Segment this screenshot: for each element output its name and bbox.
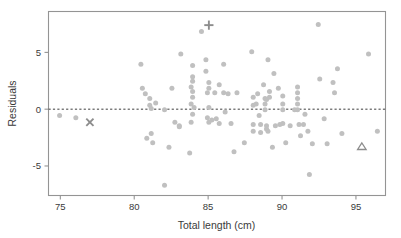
scatter-point [251,95,256,100]
scatter-point [331,80,336,85]
scatter-point [57,113,62,118]
triangle-marker [358,143,367,150]
scatter-point [339,131,344,136]
scatter-point [190,79,195,84]
scatter-point [258,122,263,127]
scatter-point [203,69,208,74]
scatter-point [147,96,152,101]
plot-canvas: 7580859095 50-5 Total length (cm) Residu… [0,0,401,238]
scatter-point [138,62,143,67]
scatter-point [234,90,239,95]
scatter-point [249,49,254,54]
scatter-point [203,57,208,62]
plot-frame [49,12,386,196]
scatter-point [221,90,226,95]
scatter-point [375,129,380,134]
scatter-point [144,136,149,141]
scatter-point [217,121,222,126]
scatter-point [301,122,306,127]
scatter-point [166,145,171,150]
scatter-point [251,122,256,127]
scatter-point [317,77,322,82]
scatter-point [255,91,260,96]
scatter-point [298,133,303,138]
scatter-point [335,66,340,71]
scatter-point [226,91,231,96]
scatter-point [280,121,285,126]
scatter-point [263,102,268,107]
scatter-point [149,131,154,136]
scatter-point [153,100,158,105]
x-axis-ticks [60,196,356,200]
scatter-point [73,115,78,120]
scatter-point [366,52,371,57]
scatter-point [297,122,302,127]
scatter-point [190,95,195,100]
scatter-point [325,141,330,146]
scatter-point [273,123,278,128]
y-axis-tick-labels: 50-5 [33,47,41,172]
x-tick-label: 85 [203,201,214,212]
scatter-point [223,110,228,115]
scatter-point [205,115,210,120]
scatter-point [162,107,167,112]
scatter-point [271,71,276,76]
scatter-point [305,129,310,134]
scatter-point [205,90,210,95]
scatter-point [206,86,211,91]
scatter-point [212,90,217,95]
scatter-point [140,86,145,91]
residual-scatter-figure: 7580859095 50-5 Total length (cm) Residu… [0,0,401,238]
scatter-point [307,172,312,177]
scatter-point [310,141,315,146]
scatter-point [217,82,222,87]
scatter-point [295,107,300,112]
scatter-point [169,86,174,91]
scatter-point [265,129,270,134]
cross-marker [86,119,93,126]
scatter-point [221,62,226,67]
scatter-point [295,90,300,95]
scatter-point [172,120,177,125]
scatter-point [206,105,211,110]
scatter-point [229,121,234,126]
scatter-point [189,85,194,90]
scatter-point [177,124,182,129]
scatter-point [267,89,272,94]
scatter-point [190,112,195,117]
scatter-point [189,120,194,125]
scatter-points [57,22,380,188]
scatter-point [280,102,285,107]
plus-marker [204,21,213,30]
scatter-point [190,74,195,79]
y-axis-title: Residuals [6,80,18,126]
y-axis-ticks [45,52,49,166]
scatter-point [214,116,219,121]
x-tick-label: 95 [351,201,362,212]
x-axis-title: Total length (cm) [178,219,256,231]
scatter-point [265,57,270,62]
scatter-point [150,140,155,145]
scatter-point [209,117,214,122]
scatter-point [242,140,247,145]
scatter-point [280,107,285,112]
y-tick-label: 5 [36,47,41,58]
x-tick-label: 75 [55,201,66,212]
scatter-point [270,145,275,150]
x-tick-label: 90 [277,201,288,212]
scatter-point [190,89,195,94]
scatter-point [199,29,204,34]
scatter-point [283,140,288,145]
x-tick-label: 80 [129,201,140,212]
scatter-point [302,112,307,117]
scatter-point [257,113,262,118]
scatter-point [162,183,167,188]
x-axis-tick-labels: 7580859095 [55,201,361,212]
scatter-point [295,102,300,107]
scatter-point [254,102,259,107]
y-tick-label: -5 [33,160,41,171]
scatter-point [263,107,268,112]
scatter-point [190,63,195,68]
scatter-point [149,106,154,111]
scatter-point [267,95,272,100]
